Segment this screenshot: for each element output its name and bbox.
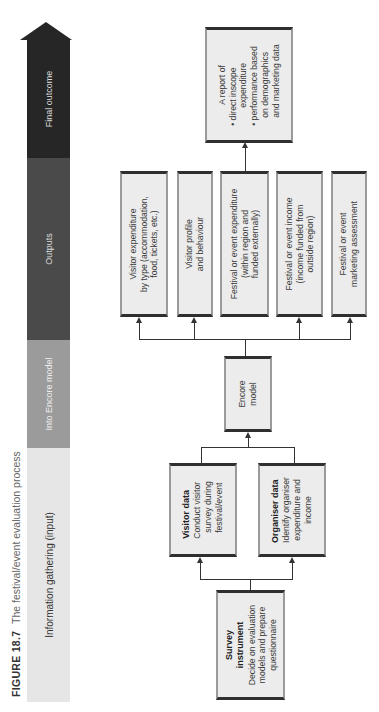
connector-line	[299, 322, 300, 339]
report-text: A report of • direct inscope expenditure…	[217, 44, 281, 126]
connector-line	[245, 339, 246, 357]
connector-line	[201, 447, 295, 448]
survey-title: Survey	[223, 630, 233, 660]
stage-into-encore: Into Encore model	[27, 340, 70, 448]
stage-arrow-head-icon	[20, 22, 72, 40]
output-event-expenditure: Festival or event expenditure (within re…	[220, 171, 269, 317]
output-visitor-expenditure: Visitor expenditure by type (accommodati…	[120, 171, 168, 317]
stage-information-gathering: Information gathering (input)	[27, 448, 70, 702]
visitor-data-title: Visitor data	[181, 490, 191, 539]
encore-model-box: Encore model	[224, 356, 272, 432]
arrow-head-icon	[191, 317, 197, 323]
report-bullet-1: • direct inscope	[228, 44, 239, 126]
stage-label: Into Encore model	[44, 357, 54, 430]
stage-outputs: Outputs	[27, 158, 70, 340]
report-box: A report of • direct inscope expenditure…	[205, 27, 293, 143]
stage-label: Information gathering (input)	[43, 512, 54, 638]
stage-label: Outputs	[44, 233, 54, 265]
figure-label: FIGURE 18.7	[10, 631, 22, 697]
connector-line	[248, 437, 249, 447]
connector-line	[350, 322, 351, 339]
connector-line	[194, 322, 195, 339]
output-event-income: Festival or event income (income funded …	[276, 171, 323, 317]
arrow-head-icon	[242, 142, 248, 148]
connector-line	[200, 562, 201, 579]
figure-title: The festival/event evaluation process	[10, 451, 22, 624]
output-marketing-assessment: Festival or event marketing assessment	[331, 171, 367, 317]
report-heading: A report of	[217, 44, 228, 126]
organiser-data-box: Organiser data Identify organiser expend…	[258, 463, 326, 557]
report-bullet-2: • performance based	[249, 44, 260, 126]
output-visitor-profile: Visitor profile and behaviour	[177, 171, 213, 317]
arrow-head-icon	[136, 317, 142, 323]
connector-line	[200, 579, 293, 580]
visitor-data-box: Visitor data Conduct visitor survey duri…	[169, 463, 237, 557]
connector-line	[294, 447, 295, 463]
stage-label: Final outcome	[44, 71, 54, 128]
connector-line	[201, 447, 202, 463]
connector-line	[139, 322, 140, 339]
figure-caption: FIGURE 18.7 The festival/event evaluatio…	[10, 451, 22, 697]
connector-line	[292, 562, 293, 579]
organiser-data-title: Organiser data	[270, 479, 280, 543]
arrow-head-icon	[347, 317, 353, 323]
stage-final-outcome: Final outcome	[27, 40, 70, 158]
connector-line	[245, 146, 246, 171]
arrow-head-icon	[296, 317, 302, 323]
survey-instrument-box: Survey instrument Decide on evaluation m…	[216, 590, 285, 700]
